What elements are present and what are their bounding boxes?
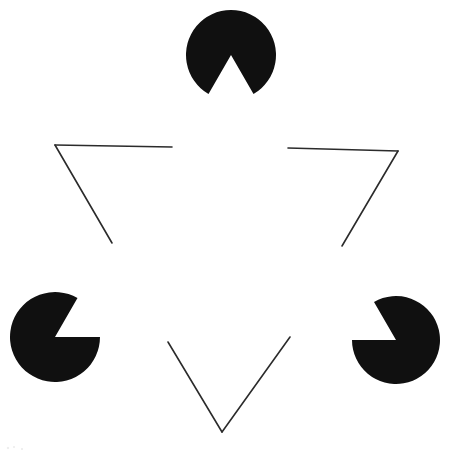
background-rect — [0, 0, 455, 457]
kanizsa-figure — [0, 0, 455, 457]
scan-artifact-speck — [6, 444, 28, 452]
figure-canvas — [0, 0, 455, 457]
